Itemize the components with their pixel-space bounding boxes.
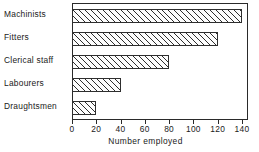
- x-tick-label: 0: [70, 124, 75, 134]
- category-label-machinists: Machinists: [4, 9, 72, 19]
- x-tick-label: 100: [186, 124, 201, 134]
- x-tick-label: 60: [140, 124, 150, 134]
- bar-labourers: [72, 78, 121, 92]
- x-tick-label: 120: [210, 124, 225, 134]
- category-label-fitters: Fitters: [4, 32, 72, 42]
- bar-clerical-staff: [72, 55, 169, 69]
- category-label-clerical-staff: Clerical staff: [4, 55, 72, 65]
- x-tick-label: 40: [116, 124, 126, 134]
- x-axis-title: Number employed: [0, 136, 259, 146]
- bar-chart: Machinists Fitters Clerical staff Labour…: [0, 0, 259, 152]
- category-label-draughtsmen: Draughtsmen: [4, 101, 72, 111]
- x-tick-label: 140: [234, 124, 249, 134]
- bar-fitters: [72, 32, 218, 46]
- bar-machinists: [72, 9, 242, 23]
- bar-draughtsmen: [72, 101, 96, 115]
- bars-layer: [72, 3, 248, 120]
- x-tick-label: 20: [91, 124, 101, 134]
- x-tick-label: 80: [164, 124, 174, 134]
- category-label-labourers: Labourers: [4, 78, 72, 88]
